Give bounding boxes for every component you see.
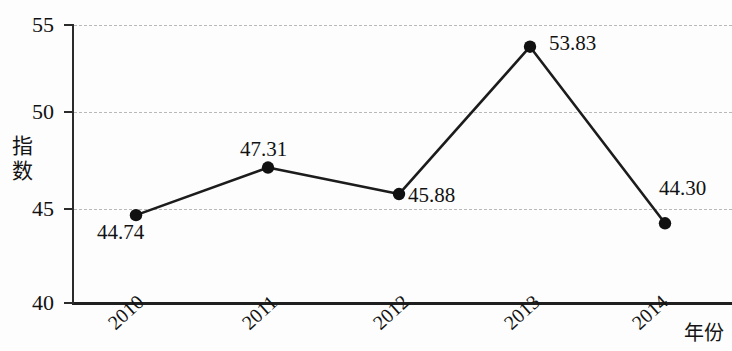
data-point-2013 (524, 40, 536, 52)
point-label-2012: 45.88 (408, 185, 455, 206)
data-point-2011 (262, 161, 274, 173)
point-label-2010: 44.74 (97, 222, 144, 243)
data-point-2012 (393, 188, 405, 200)
x-axis-title: 年份 (684, 323, 724, 343)
data-point-2014 (659, 217, 671, 229)
point-label-2014: 44.30 (659, 178, 706, 199)
series-line-group (0, 0, 732, 351)
line-chart: 指 数 55 50 45 40 44.74 47.31 45.88 53.83 … (0, 0, 732, 351)
point-label-2013: 53.83 (549, 33, 596, 54)
series-markers (130, 40, 671, 229)
point-label-2011: 47.31 (240, 139, 287, 160)
